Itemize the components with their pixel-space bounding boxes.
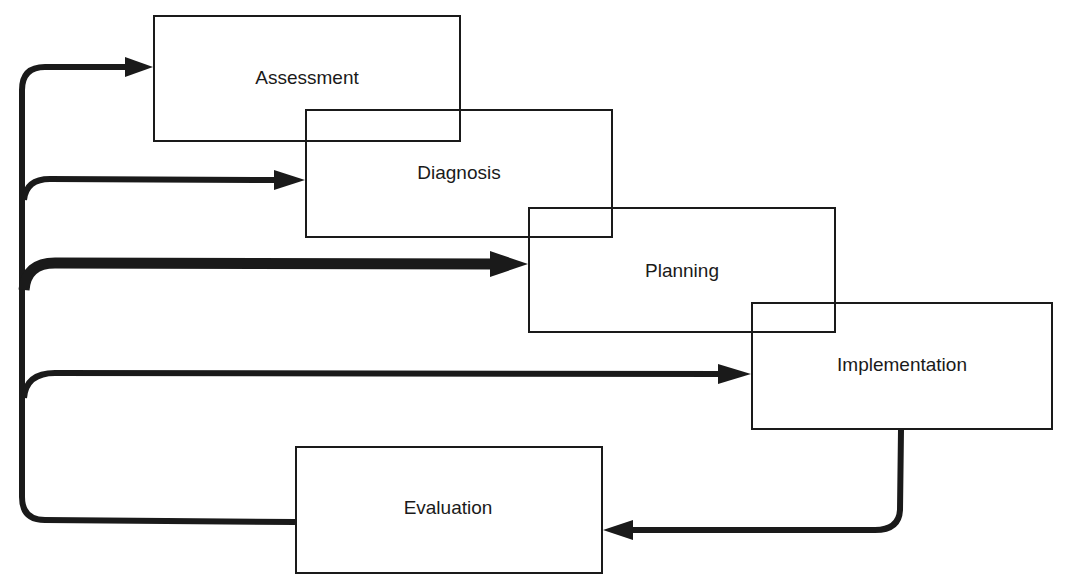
arrowhead-icon: [490, 251, 528, 277]
label-implementation: Implementation: [837, 354, 967, 376]
arrowhead-icon: [603, 520, 633, 540]
arrow-evaluation-to-implementation: [24, 364, 751, 398]
label-planning: Planning: [645, 260, 719, 282]
arrowhead-icon: [125, 57, 153, 77]
label-evaluation: Evaluation: [404, 497, 493, 519]
label-diagnosis: Diagnosis: [417, 162, 500, 184]
arrow-implementation-to-evaluation: [603, 430, 901, 540]
arrowhead-icon: [718, 364, 751, 384]
arrowhead-icon: [274, 170, 305, 190]
label-assessment: Assessment: [255, 67, 358, 89]
arrow-evaluation-to-planning: [24, 251, 528, 290]
arrow-evaluation-to-diagnosis: [24, 170, 305, 200]
